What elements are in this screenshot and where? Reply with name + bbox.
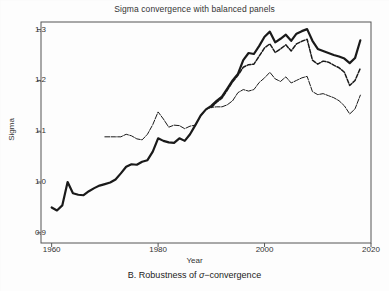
x-axis-label: Year [0,256,389,265]
series-line-1 [211,39,360,107]
y-tick-label: 0.9 [6,228,46,237]
x-tick-label: 2020 [351,245,389,254]
series-line-0 [52,29,361,210]
figure-caption: B. Robustness of σ−convergence [0,270,389,280]
chart-figure: Sigma convergence with balanced panels S… [0,0,389,291]
y-tick-label: 1.2 [6,75,46,84]
y-tick-label: 1.0 [6,177,46,186]
x-tick-label: 2000 [245,245,285,254]
caption-suffix: −convergence [204,270,261,280]
x-tick-label: 1980 [138,245,178,254]
plot-frame [41,22,371,243]
y-tick-label: 1.1 [6,126,46,135]
y-tick-label: 1.3 [6,25,46,34]
caption-prefix: B. Robustness of [128,270,199,280]
x-tick-label: 1960 [32,245,72,254]
